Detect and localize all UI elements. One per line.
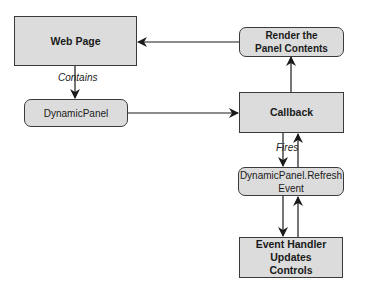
node-web-page-label: Web Page (51, 35, 101, 48)
node-dynamic-panel-label: DynamicPanel (44, 107, 108, 120)
node-refresh-event-label: DynamicPanel.Refresh Event (240, 169, 342, 195)
edge-label-contains: Contains (58, 72, 97, 83)
node-dynamic-panel: DynamicPanel (24, 99, 128, 127)
node-web-page: Web Page (14, 16, 137, 66)
node-render-panel-label: Render the Panel Contents (254, 29, 329, 55)
node-callback: Callback (239, 92, 344, 133)
node-callback-label: Callback (270, 106, 313, 119)
edge-label-fires: Fires (276, 142, 298, 153)
node-event-handler-label: Event Handler Updates Controls (250, 238, 332, 277)
node-refresh-event: DynamicPanel.Refresh Event (238, 167, 344, 196)
node-render-panel: Render the Panel Contents (239, 27, 344, 57)
node-event-handler: Event Handler Updates Controls (239, 237, 343, 278)
